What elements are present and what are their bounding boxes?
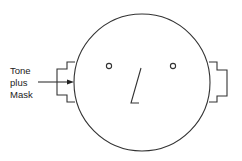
right-eye xyxy=(170,63,175,68)
arrow-head-icon xyxy=(67,80,74,85)
label-line-plus: plus xyxy=(10,77,27,89)
label-line-tone: Tone xyxy=(10,65,31,77)
head-diagram xyxy=(0,0,242,161)
label-line-mask: Mask xyxy=(10,89,33,101)
right-ear-headphone xyxy=(209,62,227,102)
left-eye xyxy=(106,63,111,68)
nose xyxy=(131,68,141,103)
head-circle xyxy=(74,14,210,151)
